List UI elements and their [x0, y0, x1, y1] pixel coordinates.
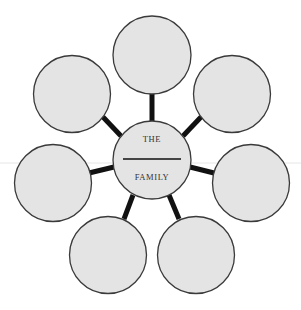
satellite-circle-right[interactable] [213, 145, 290, 222]
connector-right [190, 167, 214, 173]
connector-bottom-left [124, 195, 133, 219]
connector-bottom-right [169, 195, 179, 219]
satellite-circle-left[interactable] [15, 145, 92, 222]
connector-top-left [103, 117, 121, 136]
satellite-circle-top-left[interactable] [34, 56, 111, 133]
satellite-circle-top-right[interactable] [194, 56, 271, 133]
satellite-circle-bottom-right[interactable] [158, 217, 235, 294]
satellite-circle-bottom-left[interactable] [70, 217, 147, 294]
center-circle [113, 121, 191, 199]
connector-left [89, 167, 114, 173]
center-node: THE FAMILY [113, 121, 191, 199]
connector-top-right [183, 117, 201, 136]
center-label-bottom: FAMILY [135, 172, 170, 182]
satellite-circle-top[interactable] [113, 16, 191, 94]
center-label-top: THE [143, 134, 161, 144]
family-web-diagram: THE FAMILY [0, 0, 301, 310]
